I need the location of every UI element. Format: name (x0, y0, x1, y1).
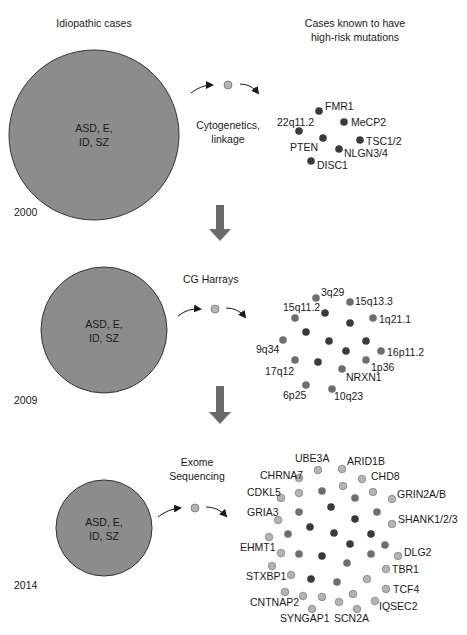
gene-cluster-2014: UBE3A ARID1B CHRNA7 CHD8 CDKL5 GRIN2A/B … (240, 452, 458, 624)
arrow-out-icon (226, 308, 245, 317)
method-label-line2: linkage (211, 133, 244, 145)
gene-label: 17q12 (265, 365, 294, 377)
gene-label: 6p25 (283, 389, 307, 401)
method-label-line1: CG Harrays (183, 273, 238, 285)
arrow-in-icon (158, 508, 180, 517)
panel-2014: ASD, E, ID, SZ 2014 Exome Sequencing UBE… (14, 452, 458, 624)
gene-label: EHMT1 (240, 541, 276, 553)
circle-label-line2: ID, SZ (79, 136, 109, 148)
year-label: 2009 (14, 394, 38, 406)
gene-label: FMR1 (325, 100, 354, 112)
gene-label: CNTNAP2 (250, 596, 299, 608)
gene-label: NRXN1 (346, 371, 382, 383)
header-idiopathic: Idiopathic cases (56, 17, 131, 29)
arrow-in-icon (178, 309, 200, 316)
year-label: 2000 (14, 206, 38, 218)
gene-label: GRIA3 (247, 506, 279, 518)
gene-label: PTEN (290, 141, 318, 153)
gene-label: IQSEC2 (379, 600, 418, 612)
gene-label: SCN2A (334, 612, 369, 624)
gene-label: NLGN3/4 (344, 147, 388, 159)
method-label-line1: Cytogenetics, (196, 119, 260, 131)
transition-dot (191, 504, 199, 512)
gene-label: MeCP2 (351, 116, 386, 128)
gene-label: DISC1 (317, 159, 348, 171)
gene-label: DLG2 (404, 546, 432, 558)
gene-label: TBR1 (392, 563, 419, 575)
circle-label-line1: ASD, E, (85, 318, 122, 330)
idiopathic-circle-2009 (41, 267, 167, 393)
gene-label: TSC1/2 (366, 135, 402, 147)
gene-label: GRIN2A/B (397, 488, 446, 500)
gene-label: TCF4 (393, 583, 419, 595)
gene-label: CHD8 (371, 470, 400, 482)
gene-label: CDKL5 (247, 486, 281, 498)
idiopathic-circle-2014 (56, 480, 152, 576)
transition-dot (211, 305, 219, 313)
gene-label: SYNGAP1 (280, 612, 330, 624)
panel-2009: ASD, E, ID, SZ 2009 CG Harrays 3q29 15q1… (14, 267, 424, 406)
gene-label: 16p11.2 (387, 346, 424, 358)
panel-2000: ASD, E, ID, SZ 2000 Cytogenetics, linkag… (9, 50, 402, 220)
gene-label: 22q11.2 (277, 116, 314, 128)
gene-label: UBE3A (295, 452, 329, 464)
gene-label: 3q29 (321, 286, 345, 298)
gene-label: 9q34 (256, 343, 280, 355)
gene-label: CHRNA7 (260, 469, 303, 481)
down-arrow-icon (209, 386, 231, 424)
circle-label-line1: ASD, E, (85, 516, 122, 528)
gene-label: SHANK1/2/3 (398, 513, 458, 525)
arrow-out-icon (206, 507, 226, 516)
circle-label-line1: ASD, E, (75, 122, 112, 134)
gene-cluster-2009: 3q29 15q13.3 15q11.2 1q21.1 9q34 16p11.2… (256, 286, 424, 402)
gene-label: 15q11.2 (283, 301, 320, 313)
gene-label: 15q13.3 (355, 295, 393, 307)
gene-label: STXBP1 (246, 570, 286, 582)
circle-label-line2: ID, SZ (89, 530, 119, 542)
arrow-in-icon (191, 85, 212, 93)
gene-label: 10q23 (334, 390, 363, 402)
diagram-canvas: Idiopathic cases Cases known to have hig… (0, 0, 467, 635)
method-label-line1: Exome (181, 456, 214, 468)
gene-label: ARID1B (347, 455, 385, 467)
circle-label-line2: ID, SZ (89, 332, 119, 344)
gene-cluster-2000: FMR1 MeCP2 22q11.2 PTEN TSC1/2 NLGN3/4 D… (277, 100, 402, 171)
gene-label: 1q21.1 (379, 313, 411, 325)
header-high-risk-line2: high-risk mutations (311, 31, 399, 43)
header-high-risk-line1: Cases known to have (305, 17, 406, 29)
down-arrow-icon (209, 205, 231, 241)
idiopathic-circle-2000 (9, 50, 179, 220)
arrow-out-icon (240, 84, 258, 93)
transition-dot (224, 81, 232, 89)
year-label: 2014 (14, 579, 38, 591)
method-label-line2: Sequencing (169, 470, 225, 482)
